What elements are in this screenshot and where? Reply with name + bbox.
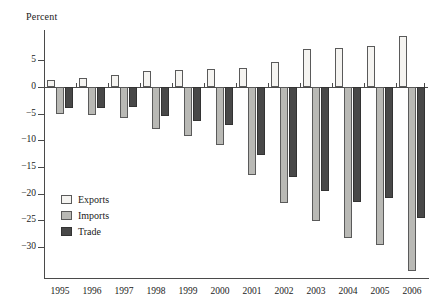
bar-trade-1999 — [193, 87, 201, 121]
y-tick-label: −25 — [0, 214, 36, 224]
y-tick-label: 0 — [0, 81, 36, 91]
x-tick-mark — [108, 83, 109, 87]
bar-trade-2006 — [417, 87, 425, 218]
x-axis-label-2002: 2002 — [268, 286, 300, 296]
bar-exports-1997 — [111, 75, 119, 87]
x-axis-label-2004: 2004 — [332, 286, 364, 296]
bar-exports-2006 — [399, 36, 407, 87]
y-tick-mark — [38, 114, 44, 115]
y-tick-mark — [38, 194, 44, 195]
y-tick-label: 5 — [0, 54, 36, 64]
bar-exports-2003 — [303, 49, 311, 87]
x-tick-mark — [172, 83, 173, 87]
y-tick-mark — [38, 60, 44, 61]
x-tick-mark — [140, 83, 141, 87]
bar-trade-2005 — [385, 87, 393, 198]
bar-imports-2006 — [408, 87, 416, 271]
bar-exports-2005 — [367, 46, 375, 87]
x-tick-mark — [300, 83, 301, 87]
x-axis-label-2005: 2005 — [364, 286, 396, 296]
legend-item-imports: Imports — [61, 208, 109, 222]
y-tick-label: −5 — [0, 108, 36, 118]
x-axis-line — [44, 278, 429, 279]
bar-imports-2005 — [376, 87, 384, 245]
x-axis-label-1997: 1997 — [108, 286, 140, 296]
bar-exports-2001 — [239, 68, 247, 87]
y-tick-label: −20 — [0, 188, 36, 198]
clipped-title-strip — [0, 0, 448, 10]
bar-imports-2000 — [216, 87, 224, 145]
chart-legend: Exports Imports Trade — [61, 192, 109, 240]
x-tick-mark — [76, 83, 77, 87]
x-axis-label-2001: 2001 — [236, 286, 268, 296]
legend-label-trade: Trade — [78, 226, 101, 237]
bar-imports-2001 — [248, 87, 256, 175]
bar-trade-2002 — [289, 87, 297, 177]
bar-imports-1997 — [120, 87, 128, 118]
x-axis-label-2000: 2000 — [204, 286, 236, 296]
y-tick-mark — [38, 167, 44, 168]
bar-trade-1995 — [65, 87, 73, 108]
x-tick-mark — [332, 83, 333, 87]
y-tick-mark — [38, 140, 44, 141]
x-tick-mark — [268, 83, 269, 87]
bar-exports-1996 — [79, 78, 87, 87]
legend-swatch-exports — [61, 195, 72, 204]
y-tick-label: −30 — [0, 241, 36, 251]
bar-imports-1995 — [56, 87, 64, 114]
x-axis-label-2003: 2003 — [300, 286, 332, 296]
bar-trade-1996 — [97, 87, 105, 108]
y-axis-line — [44, 30, 45, 278]
x-axis-label-2006: 2006 — [396, 286, 428, 296]
bar-imports-1999 — [184, 87, 192, 136]
y-tick-mark — [38, 87, 44, 88]
y-tick-label: −15 — [0, 161, 36, 171]
x-axis-label-1999: 1999 — [172, 286, 204, 296]
legend-swatch-trade — [61, 227, 72, 236]
x-tick-mark — [204, 83, 205, 87]
bar-exports-2002 — [271, 62, 279, 87]
x-tick-mark — [44, 83, 45, 87]
bar-imports-2004 — [344, 87, 352, 238]
chart-figure: Percent 50−5−10−15−20−25−30 199519961997… — [0, 0, 448, 308]
x-axis-label-1998: 1998 — [140, 286, 172, 296]
y-tick-label: −10 — [0, 134, 36, 144]
x-tick-mark — [364, 83, 365, 87]
bar-trade-2001 — [257, 87, 265, 155]
bar-trade-1998 — [161, 87, 169, 116]
x-tick-mark — [236, 83, 237, 87]
x-tick-mark — [396, 83, 397, 87]
legend-swatch-imports — [61, 211, 72, 220]
x-axis-label-1996: 1996 — [76, 286, 108, 296]
bar-imports-2002 — [280, 87, 288, 203]
legend-item-trade: Trade — [61, 224, 109, 238]
bar-trade-2004 — [353, 87, 361, 202]
bar-trade-2000 — [225, 87, 233, 125]
bar-exports-2004 — [335, 48, 343, 87]
y-axis-unit-label: Percent — [26, 11, 57, 22]
bar-exports-1999 — [175, 70, 183, 87]
bar-exports-1995 — [47, 80, 55, 87]
bar-imports-1998 — [152, 87, 160, 129]
bar-trade-2003 — [321, 87, 329, 191]
x-axis-label-1995: 1995 — [44, 286, 76, 296]
y-tick-mark — [38, 220, 44, 221]
bar-exports-1998 — [143, 71, 151, 87]
bar-imports-2003 — [312, 87, 320, 221]
bar-trade-1997 — [129, 87, 137, 107]
bar-imports-1996 — [88, 87, 96, 115]
legend-item-exports: Exports — [61, 192, 109, 206]
legend-label-exports: Exports — [78, 194, 109, 205]
y-tick-mark — [38, 247, 44, 248]
legend-label-imports: Imports — [78, 210, 109, 221]
bar-exports-2000 — [207, 69, 215, 87]
